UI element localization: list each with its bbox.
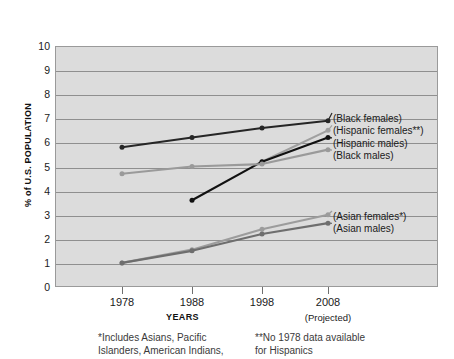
series-point [190, 164, 195, 169]
chart-figure: % of U.S. POPULATION 0 1 2 3 4 5 6 7 8 9… [0, 0, 454, 359]
x-label-1988: 1988 [180, 296, 204, 308]
x-label-2008: 2008 [316, 296, 340, 308]
data-series-layer [55, 46, 438, 287]
y-tick-6: 6 [22, 137, 50, 148]
series-point [120, 171, 125, 176]
x-tick-1998 [262, 287, 263, 294]
series-line [192, 138, 328, 201]
legend-top-group: (Black females) (Hispanic females**) (Hi… [333, 113, 424, 163]
y-tick-2: 2 [22, 234, 50, 245]
x-label-1998: 1998 [250, 296, 274, 308]
y-tick-0: 0 [22, 282, 50, 293]
series-point [260, 231, 265, 236]
y-tick-7: 7 [22, 113, 50, 124]
series-point [326, 128, 331, 133]
series-line [122, 215, 328, 263]
legend-bottom-group: (Asian females*) (Asian males) [333, 211, 406, 236]
y-tick-9: 9 [22, 65, 50, 76]
series-point [260, 227, 265, 232]
series-point [190, 135, 195, 140]
legend-item-asian-females: (Asian females*) [333, 211, 406, 223]
y-tick-10: 10 [22, 41, 50, 52]
series-point [326, 212, 331, 217]
series-point [326, 221, 331, 226]
legend-item-hispanic-females: (Hispanic females**) [333, 125, 424, 137]
x-axis-tick-labels: 1978 1988 1998 2008 (Projected) [0, 296, 454, 326]
series-line [122, 150, 328, 174]
x-label-projected: (Projected) [305, 312, 351, 323]
y-tick-3: 3 [22, 209, 50, 220]
x-label-1978: 1978 [110, 296, 134, 308]
series-point [326, 147, 331, 152]
series-point [190, 198, 195, 203]
series-point [190, 248, 195, 253]
x-axis-ticks [55, 287, 438, 295]
y-tick-5: 5 [22, 161, 50, 172]
series-line [122, 223, 328, 263]
y-tick-1: 1 [22, 258, 50, 269]
series-point [326, 118, 331, 123]
footnote-hispanic: **No 1978 data available for Hispanics [255, 331, 365, 357]
y-tick-4: 4 [22, 185, 50, 196]
y-tick-8: 8 [22, 89, 50, 100]
legend-item-hispanic-males: (Hispanic males) [333, 138, 424, 150]
footnote-asian: *Includes Asians, Pacific Islanders, Ame… [98, 331, 224, 357]
series-line [122, 121, 328, 148]
y-axis-tick-labels: 0 1 2 3 4 5 6 7 8 9 10 [22, 46, 50, 287]
x-tick-1978 [122, 287, 123, 294]
legend-item-black-males: (Black males) [333, 150, 424, 162]
series-point [260, 125, 265, 130]
legend-item-black-females: (Black females) [333, 113, 424, 125]
series-point [260, 162, 265, 167]
legend-item-asian-males: (Asian males) [333, 223, 406, 235]
series-point [120, 260, 125, 265]
x-tick-1988 [192, 287, 193, 294]
x-axis-title: YEARS [166, 312, 199, 322]
series-point [120, 145, 125, 150]
x-tick-2008 [328, 287, 329, 294]
series-point [326, 135, 331, 140]
